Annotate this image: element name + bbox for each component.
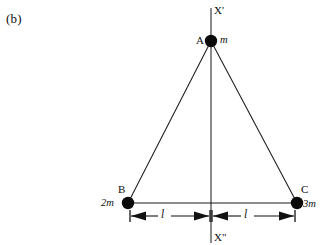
dim-arrow-left-start (131, 212, 146, 221)
mass-label-a: m (220, 35, 228, 46)
dim-arrow-right-end (279, 212, 294, 221)
dim-arrow-right-start (213, 212, 228, 221)
axis-top-label: X' (214, 5, 224, 16)
dimension-label-right: l (244, 209, 247, 221)
dimension-left-span (130, 210, 210, 222)
dimension-label-left: l (161, 209, 164, 221)
panel-label: (b) (6, 12, 22, 25)
vertex-label-a: A (196, 35, 204, 46)
figure-container: (b) X' X" A m B 2m C 3m l l (0, 0, 323, 245)
vertex-label-c: C (301, 184, 308, 195)
axis-bottom-label: X" (214, 232, 226, 243)
mass-label-c: 3m (303, 199, 316, 210)
edge-a-b (128, 41, 211, 203)
mass-point-c (291, 197, 303, 209)
vertex-label-b: B (118, 184, 125, 195)
dimension-right-span (212, 210, 295, 222)
edge-a-c (211, 41, 297, 203)
mass-point-b (122, 197, 134, 209)
mass-point-a (205, 35, 217, 47)
mass-label-b: 2m (101, 198, 114, 209)
dim-arrow-left-end (194, 212, 209, 221)
